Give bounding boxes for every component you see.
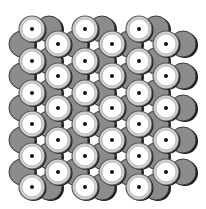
center-dot-icon (137, 154, 141, 158)
center-dot-icon (164, 138, 168, 142)
center-dot-icon (30, 27, 34, 31)
center-dot-icon (164, 106, 168, 110)
center-dot-icon (137, 27, 141, 31)
center-dot-icon (30, 59, 34, 63)
center-dot-icon (83, 59, 87, 63)
center-dot-icon (164, 74, 168, 78)
center-dot-icon (30, 91, 34, 95)
center-dot-icon (83, 185, 87, 189)
center-dot-icon (30, 154, 34, 158)
center-dot-icon (83, 122, 87, 126)
center-dot-icon (83, 91, 87, 95)
center-dot-icon (56, 170, 60, 174)
center-dot-icon (56, 106, 60, 110)
center-dot-icon (110, 106, 114, 110)
lattice-diagram (0, 0, 206, 209)
center-dot-icon (83, 27, 87, 31)
center-dot-icon (110, 138, 114, 142)
center-dot-icon (30, 185, 34, 189)
center-dot-icon (164, 42, 168, 46)
center-dot-icon (137, 91, 141, 95)
white-atoms-layer (19, 16, 181, 201)
center-dot-icon (56, 138, 60, 142)
center-dot-icon (83, 154, 87, 158)
center-dot-icon (110, 74, 114, 78)
center-dot-icon (56, 74, 60, 78)
center-dot-icon (137, 122, 141, 126)
center-dot-icon (137, 59, 141, 63)
center-dot-icon (30, 122, 34, 126)
center-dot-icon (110, 170, 114, 174)
center-dot-icon (137, 185, 141, 189)
center-dot-icon (110, 42, 114, 46)
center-dot-icon (164, 170, 168, 174)
center-dot-icon (56, 42, 60, 46)
